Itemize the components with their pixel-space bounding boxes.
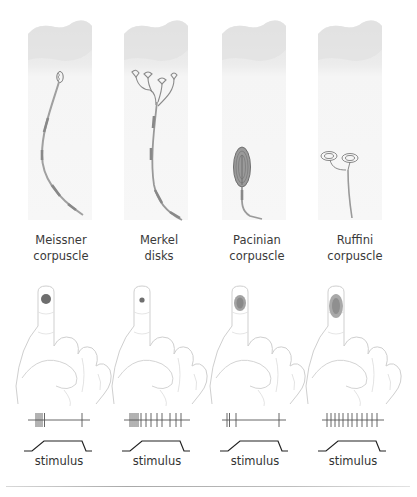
hand-pacinian [210,286,305,406]
receptor-label-pacinian: Pacinian corpuscle [212,232,302,264]
stimulus-trace-ruffini [318,441,386,451]
bottom-divider [6,486,410,487]
receptive-field-merkel [139,297,144,302]
hand-merkel [112,286,207,406]
receptor-label-ruffini: Ruffini corpuscle [310,232,400,264]
stimulus-label-pacinian: stimulus [210,454,300,468]
hands-receptive-fields [0,280,417,420]
spike-train-merkel [124,413,190,427]
skin-block-pacinian [222,21,286,220]
skin-block-ruffini [318,21,382,220]
stimulus-label-merkel: stimulus [112,454,202,468]
stimulus-label-meissner: stimulus [14,454,104,468]
skin-sections [0,0,417,230]
spike-train-ruffini [322,413,384,427]
stimulus-trace-meissner [24,441,92,451]
receptor-label-merkel: Merkel disks [114,232,204,264]
skin-block-meissner [28,21,92,220]
spike-train-meissner [28,413,90,427]
receptor-label-meissner: Meissner corpuscle [16,232,106,264]
hand-ruffini [306,286,401,406]
receptive-field-meissner [41,294,51,304]
spike-train-pacinian [222,413,286,427]
stimulus-label-ruffini: stimulus [308,454,398,468]
touch-receptors-diagram: Meissner corpuscle Merkel disks Pacinian… [0,0,417,497]
skin-block-merkel [124,21,188,220]
stimulus-trace-pacinian [220,441,288,451]
hand-meissner [16,286,111,406]
stimulus-trace-merkel [122,441,190,451]
